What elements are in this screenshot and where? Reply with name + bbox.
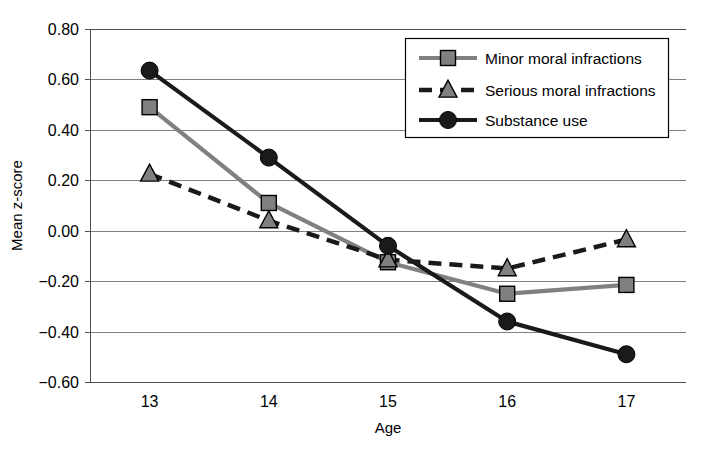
x-tick-label: 17 [618,393,636,410]
y-tick-label: −0.20 [39,273,80,290]
legend-label: Substance use [485,112,588,129]
data-point-circle [499,313,516,330]
y-tick-label: 0.00 [48,223,79,240]
chart-page: 0.800.600.400.200.00−0.20−0.40−0.60 1314… [0,0,701,460]
x-tick-label: 14 [260,393,278,410]
y-tick-label: 0.60 [48,71,79,88]
data-point-circle [618,346,635,363]
data-point-circle [380,237,397,254]
y-tick-label: 0.20 [48,172,79,189]
data-point-square [142,100,157,115]
legend-label: Serious moral infractions [485,82,656,99]
data-point-circle [141,62,158,79]
y-axis-title: Mean z-score [8,160,25,251]
x-tick-label: 13 [141,393,159,410]
data-point-square [261,195,276,210]
data-point-square [500,286,515,301]
x-axis-title: Age [375,419,402,436]
data-point-circle [440,112,457,129]
line-chart: 0.800.600.400.200.00−0.20−0.40−0.60 1314… [0,0,701,460]
legend: Minor moral infractionsSerious moral inf… [406,39,669,138]
x-tick-label: 15 [379,393,397,410]
data-point-circle [260,149,277,166]
y-tick-label: 0.40 [48,122,79,139]
data-point-square [619,277,634,292]
data-point-square [441,51,456,66]
x-tick-label: 16 [498,393,516,410]
y-tick-label: −0.60 [39,374,80,391]
y-tick-label: −0.40 [39,324,80,341]
legend-label: Minor moral infractions [485,50,642,67]
y-tick-label: 0.80 [48,21,79,38]
